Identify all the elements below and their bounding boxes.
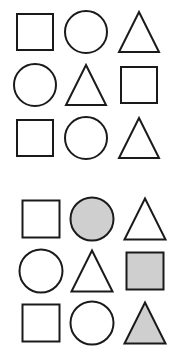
square-shape <box>23 305 60 342</box>
bottom-shape-grid <box>0 185 181 350</box>
top-grid-canvas <box>0 0 181 170</box>
circle-shape <box>14 64 56 106</box>
circle-shape <box>71 302 114 345</box>
triangle-shape <box>66 65 106 105</box>
square-shape <box>23 201 60 238</box>
triangle-shape <box>125 199 166 240</box>
bottom-grid-canvas <box>0 185 181 350</box>
square-shape <box>121 67 157 103</box>
circle-shape <box>65 11 107 53</box>
shaded-circle-shape <box>71 198 114 241</box>
top-shape-grid <box>0 0 181 170</box>
shaded-triangle-shape <box>125 303 166 344</box>
shaded-square-shape <box>127 253 164 290</box>
triangle-shape <box>72 251 113 292</box>
square-shape <box>17 14 53 50</box>
triangle-shape <box>119 118 159 158</box>
circle-shape <box>20 250 63 293</box>
square-shape <box>17 120 53 156</box>
circle-shape <box>65 117 107 159</box>
triangle-shape <box>119 12 159 52</box>
